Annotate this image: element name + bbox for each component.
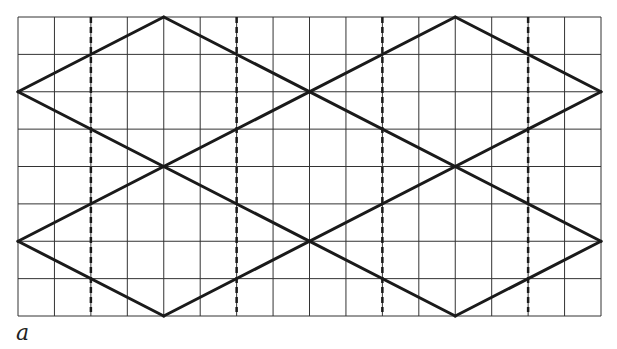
square-grid [18, 17, 601, 316]
rhombus-lattice-diagram [0, 0, 617, 349]
figure-label: a [16, 322, 29, 344]
